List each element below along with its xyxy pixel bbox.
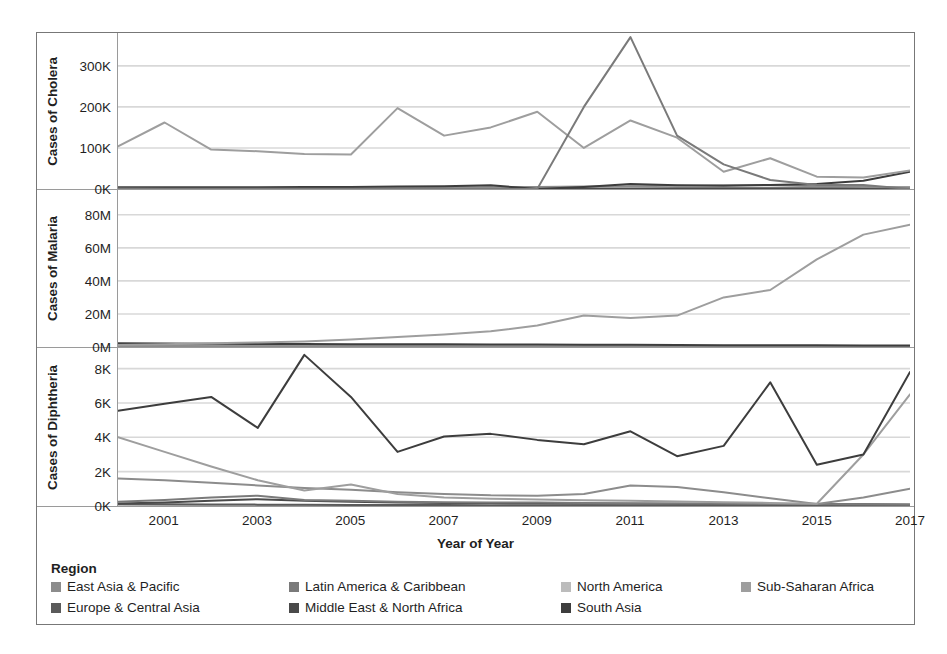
panel-diphtheria: Cases of Diphtheria 0K2K4K6K8K [37,348,914,507]
legend-item[interactable]: North America [561,579,663,594]
chart-svg [118,348,910,506]
x-axis: 200120032005200720092011201320152017 Yea… [37,507,914,559]
legend: Region East Asia & PacificEurope & Centr… [37,559,914,624]
plot-area-malaria [117,190,910,347]
plot-area-cholera [117,33,910,189]
y-tick-label: 80M [85,207,111,222]
legend-swatch-icon [51,603,61,613]
legend-item[interactable]: Latin America & Caribbean [289,579,466,594]
x-tick-label: 2005 [335,513,365,528]
chart-svg [118,33,910,189]
legend-item-label: Sub-Saharan Africa [757,579,874,594]
legend-swatch-icon [289,582,299,592]
visualization-container: Cases of Cholera 0K100K200K300K Cases of… [36,32,915,625]
panel-malaria: Cases of Malaria 0M20M40M60M80M [37,190,914,348]
legend-item[interactable]: Middle East & North Africa [289,600,463,615]
y-tick-label: 40M [85,273,111,288]
legend-item-label: East Asia & Pacific [67,579,180,594]
y-axis-ticks-malaria: 0M20M40M60M80M [65,190,115,347]
y-tick-label: 8K [94,361,111,376]
legend-item-label: Europe & Central Asia [67,600,200,615]
legend-item[interactable]: South Asia [561,600,642,615]
x-axis-ticks: 200120032005200720092011201320152017 [117,507,910,559]
y-tick-label: 60M [85,240,111,255]
y-axis-ticks-cholera: 0K100K200K300K [65,33,115,189]
series-line [118,225,910,345]
chart-svg [118,190,910,347]
legend-swatch-icon [289,603,299,613]
legend-item[interactable]: East Asia & Pacific [51,579,180,594]
y-tick-label: 6K [94,395,111,410]
plot-area-diphtheria [117,348,910,506]
y-axis-title-diphtheria-label: Cases of Diphtheria [45,365,60,490]
y-tick-label: 2K [94,464,111,479]
legend-item[interactable]: Sub-Saharan Africa [741,579,874,594]
legend-item-label: North America [577,579,663,594]
y-axis-ticks-diphtheria: 0K2K4K6K8K [65,348,115,506]
x-axis-title: Year of Year [37,536,914,551]
x-tick-label: 2009 [522,513,552,528]
y-axis-title-malaria-label: Cases of Malaria [45,216,60,321]
x-tick-label: 2015 [802,513,832,528]
legend-item-label: Middle East & North Africa [305,600,463,615]
x-tick-label: 2017 [895,513,925,528]
chart-panels: Cases of Cholera 0K100K200K300K Cases of… [37,33,914,507]
x-tick-label: 2007 [428,513,458,528]
legend-item-label: South Asia [577,600,642,615]
y-axis-title-malaria: Cases of Malaria [39,190,65,347]
y-tick-label: 100K [79,140,111,155]
y-tick-label: 4K [94,430,111,445]
x-tick-label: 2003 [242,513,272,528]
legend-item-label: Latin America & Caribbean [305,579,466,594]
y-axis-title-cholera: Cases of Cholera [39,33,65,189]
series-line [118,394,910,503]
x-tick-label: 2013 [708,513,738,528]
y-axis-title-diphtheria: Cases of Diphtheria [39,348,65,506]
legend-swatch-icon [51,582,61,592]
legend-items: East Asia & PacificEurope & Central Asia… [51,579,914,623]
legend-swatch-icon [561,582,571,592]
y-axis-title-cholera-label: Cases of Cholera [45,57,60,166]
series-line [118,355,910,465]
x-tick-label: 2011 [616,513,645,528]
y-tick-label: 200K [79,99,111,114]
legend-title: Region [51,561,914,576]
legend-swatch-icon [561,603,571,613]
y-tick-label: 20M [85,306,111,321]
y-tick-label: 300K [79,58,111,73]
series-line [118,108,910,177]
legend-item[interactable]: Europe & Central Asia [51,600,200,615]
x-tick-label: 2001 [149,513,179,528]
legend-swatch-icon [741,582,751,592]
panel-cholera: Cases of Cholera 0K100K200K300K [37,33,914,190]
